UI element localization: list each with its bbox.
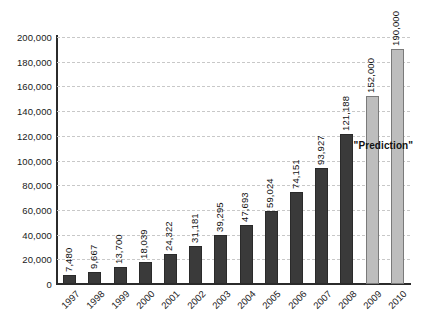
bar-group: 7,4809,66713,70018,03924,32231,18139,295… bbox=[57, 37, 410, 284]
y-axis-tick-label: 160,000 bbox=[17, 81, 52, 92]
bar-actual[interactable] bbox=[88, 272, 101, 284]
bar-slot: 93,927 bbox=[315, 37, 328, 284]
y-axis-tick-label: 140,000 bbox=[17, 106, 52, 117]
bar-value-label: 24,322 bbox=[163, 221, 174, 251]
x-axis-tick-label: 2010 bbox=[377, 288, 409, 320]
bar-actual[interactable] bbox=[139, 262, 152, 284]
plot-area: 7,4809,66713,70018,03924,32231,18139,295… bbox=[57, 37, 410, 284]
x-axis-tick-label: 2006 bbox=[276, 288, 308, 320]
prediction-note: "Prediction" bbox=[354, 140, 414, 151]
bar-slot: 47,693 bbox=[240, 37, 253, 284]
y-axis-tick-label: 0 bbox=[47, 279, 52, 290]
x-axis-tick-label: 2005 bbox=[251, 288, 283, 320]
bar-value-label: 18,039 bbox=[138, 229, 149, 259]
bar-slot: 121,188 bbox=[340, 37, 353, 284]
bar-actual[interactable] bbox=[290, 192, 303, 284]
x-axis-tick-label: 1997 bbox=[50, 288, 82, 320]
y-axis-tick-label: 120,000 bbox=[17, 130, 52, 141]
bar-chart: 200,000180,000160,000140,000120,000100,0… bbox=[0, 0, 421, 330]
bar-value-label: 7,480 bbox=[62, 247, 73, 271]
y-axis-tick-label: 40,000 bbox=[22, 229, 52, 240]
bar-value-label: 13,700 bbox=[113, 234, 124, 264]
bar-slot: 18,039 bbox=[139, 37, 152, 284]
bar-actual[interactable] bbox=[240, 225, 253, 284]
bar-slot: 190,000 bbox=[391, 37, 404, 284]
bar-prediction[interactable] bbox=[391, 49, 404, 284]
x-axis-tick-label: 2002 bbox=[176, 288, 208, 320]
x-axis-tick-label: 2001 bbox=[150, 288, 182, 320]
y-axis-tick-label: 180,000 bbox=[17, 56, 52, 67]
bar-slot: 13,700 bbox=[114, 37, 127, 284]
bar-value-label: 190,000 bbox=[390, 11, 401, 46]
bar-slot: 152,000 bbox=[366, 37, 379, 284]
bar-slot: 24,322 bbox=[164, 37, 177, 284]
bar-actual[interactable] bbox=[114, 267, 127, 284]
y-axis-tick-label: 80,000 bbox=[22, 180, 52, 191]
bar-actual[interactable] bbox=[63, 275, 76, 284]
bar-slot: 39,295 bbox=[214, 37, 227, 284]
bar-slot: 59,024 bbox=[265, 37, 278, 284]
bar-slot: 7,480 bbox=[63, 37, 76, 284]
bar-actual[interactable] bbox=[340, 134, 353, 284]
bar-slot: 74,151 bbox=[290, 37, 303, 284]
bar-actual[interactable] bbox=[164, 254, 177, 284]
bar-value-label: 121,188 bbox=[340, 96, 351, 131]
bar-actual[interactable] bbox=[214, 235, 227, 284]
bar-value-label: 93,927 bbox=[314, 135, 325, 165]
bar-actual[interactable] bbox=[265, 211, 278, 284]
y-axis-tick-label: 200,000 bbox=[17, 32, 52, 43]
bar-actual[interactable] bbox=[189, 246, 202, 285]
y-axis-tick-label: 20,000 bbox=[22, 254, 52, 265]
bar-actual[interactable] bbox=[315, 168, 328, 284]
bar-value-label: 74,151 bbox=[289, 160, 300, 190]
bar-prediction[interactable] bbox=[366, 96, 379, 284]
y-axis-tick-labels: 200,000180,000160,000140,000120,000100,0… bbox=[0, 0, 52, 330]
bar-slot: 9,667 bbox=[88, 37, 101, 284]
bar-value-label: 39,295 bbox=[213, 203, 224, 233]
y-axis-tick-label: 100,000 bbox=[17, 155, 52, 166]
bar-value-label: 152,000 bbox=[365, 58, 376, 93]
y-axis-tick-label: 60,000 bbox=[22, 204, 52, 215]
bar-value-label: 9,667 bbox=[87, 245, 98, 269]
bar-value-label: 59,024 bbox=[264, 178, 275, 208]
bar-slot: 31,181 bbox=[189, 37, 202, 284]
bar-value-label: 31,181 bbox=[188, 213, 199, 243]
bar-value-label: 47,693 bbox=[239, 192, 250, 222]
